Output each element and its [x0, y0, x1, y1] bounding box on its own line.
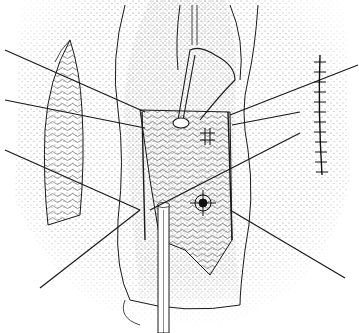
surgical-illustration — [0, 0, 359, 333]
catheter — [158, 203, 170, 333]
illustration-canvas — [0, 0, 359, 333]
